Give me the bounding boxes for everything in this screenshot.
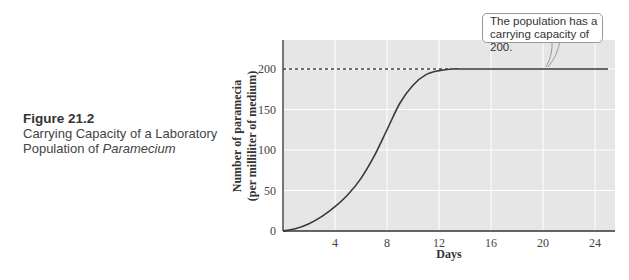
svg-text:4: 4 [332, 236, 338, 250]
carrying-capacity-callout: The population has a carrying capacity o… [482, 13, 603, 43]
svg-text:150: 150 [258, 103, 276, 117]
svg-text:8: 8 [384, 236, 390, 250]
svg-text:(per milliliter of medium): (per milliliter of medium) [245, 71, 259, 202]
svg-text:50: 50 [264, 184, 276, 198]
svg-text:Number of paramecia: Number of paramecia [230, 80, 244, 192]
y-axis-label: Number of paramecia (per milliliter of m… [230, 71, 259, 202]
svg-text:20: 20 [537, 236, 549, 250]
svg-text:0: 0 [270, 224, 276, 238]
svg-text:24: 24 [589, 236, 601, 250]
svg-text:200: 200 [258, 62, 276, 76]
x-axis-tick-labels: 4812162024 [332, 236, 601, 250]
x-axis-label: Days [436, 247, 462, 261]
y-axis-tick-labels: 050100150200 [258, 62, 276, 238]
svg-text:100: 100 [258, 143, 276, 157]
svg-text:16: 16 [485, 236, 497, 250]
